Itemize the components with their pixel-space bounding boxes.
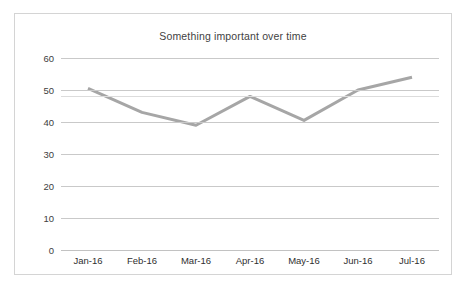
series-polyline xyxy=(88,77,412,125)
gridline xyxy=(61,218,439,219)
y-axis-tick-label: 0 xyxy=(49,245,54,256)
x-axis-tick-label: Jul-16 xyxy=(385,255,439,266)
x-axis-tick-label: Feb-16 xyxy=(115,255,169,266)
gridline xyxy=(61,58,439,59)
y-axis-tick-label: 40 xyxy=(43,117,54,128)
plot-area: 0102030405060 xyxy=(61,58,439,250)
x-axis-tick-label: Jun-16 xyxy=(331,255,385,266)
x-axis-tick-label: Mar-16 xyxy=(169,255,223,266)
y-axis-tick-label: 10 xyxy=(43,213,54,224)
y-axis-tick-label: 50 xyxy=(43,85,54,96)
gridline xyxy=(61,154,439,155)
y-axis-tick-label: 30 xyxy=(43,149,54,160)
reference-line xyxy=(61,96,439,97)
gridline xyxy=(61,122,439,123)
y-axis-tick-label: 60 xyxy=(43,53,54,64)
gridline xyxy=(61,186,439,187)
gridline xyxy=(61,90,439,91)
x-axis-tick-label: Jan-16 xyxy=(61,255,115,266)
x-axis-labels: Jan-16Feb-16Mar-16Apr-16May-16Jun-16Jul-… xyxy=(61,255,439,266)
y-axis-tick-label: 20 xyxy=(43,181,54,192)
chart-frame: Something important over time 0102030405… xyxy=(14,13,452,275)
chart-title: Something important over time xyxy=(15,30,451,42)
gridline xyxy=(61,250,439,251)
x-axis-tick-label: May-16 xyxy=(277,255,331,266)
x-axis-tick-label: Apr-16 xyxy=(223,255,277,266)
